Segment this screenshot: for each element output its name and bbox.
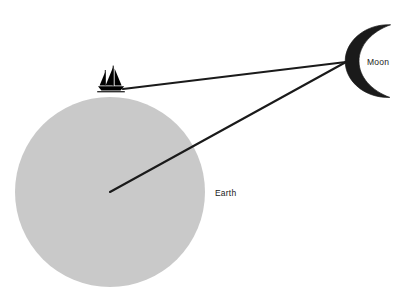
parallax-diagram: Earth Moon — [0, 0, 417, 306]
diagram-canvas: Earth Moon — [0, 0, 417, 306]
sailboat-icon — [97, 66, 125, 93]
moon-label: Moon — [367, 57, 389, 67]
sight-line-boat-to-moon — [123, 62, 346, 89]
earth-label: Earth — [215, 188, 236, 198]
